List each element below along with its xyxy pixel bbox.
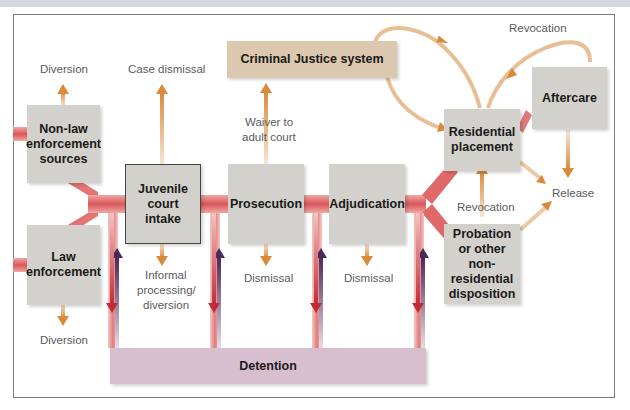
node-non-law-enforcement: Non-law enforcement sources bbox=[27, 105, 100, 183]
node-label: Detention bbox=[239, 359, 297, 374]
label-informal-line3: diversion bbox=[143, 298, 189, 312]
label-release: Release bbox=[552, 186, 594, 200]
label-diversion-top: Diversion bbox=[40, 62, 88, 76]
node-label: Criminal Justice system bbox=[240, 52, 383, 67]
label-case-dismissal: Case dismissal bbox=[128, 62, 205, 76]
label-dismissal-prosecution: Dismissal bbox=[244, 271, 293, 285]
node-label: Probation or other non-residential dispo… bbox=[446, 227, 518, 302]
label-waiver-line1: Waiver to bbox=[245, 115, 293, 129]
label-dismissal-adjudication: Dismissal bbox=[344, 271, 393, 285]
node-aftercare: Aftercare bbox=[532, 67, 607, 129]
label-informal-line2: processing/ bbox=[137, 283, 196, 297]
node-law-enforcement: Law enforcement bbox=[27, 225, 100, 305]
node-label: Juvenile court intake bbox=[128, 182, 198, 227]
node-label: Aftercare bbox=[542, 91, 597, 106]
node-label: Non-law enforcement sources bbox=[26, 122, 101, 167]
label-revocation-mid: Revocation bbox=[457, 200, 515, 214]
node-residential-placement: Residential placement bbox=[444, 109, 520, 171]
node-probation: Probation or other non-residential dispo… bbox=[444, 224, 520, 304]
label-diversion-bottom: Diversion bbox=[40, 333, 88, 347]
label-informal-line1: Informal bbox=[145, 268, 187, 282]
node-label: Adjudication bbox=[329, 197, 405, 212]
label-waiver-line2: adult court bbox=[242, 130, 296, 144]
node-label: Law enforcement bbox=[26, 250, 101, 280]
node-label: Prosecution bbox=[230, 197, 302, 212]
node-criminal-justice-system: Criminal Justice system bbox=[227, 41, 397, 78]
node-prosecution: Prosecution bbox=[228, 164, 304, 244]
node-label: Residential placement bbox=[446, 125, 518, 155]
node-detention: Detention bbox=[110, 348, 426, 384]
node-adjudication: Adjudication bbox=[329, 164, 405, 244]
node-juvenile-court-intake: Juvenile court intake bbox=[125, 164, 201, 244]
label-revocation-top: Revocation bbox=[509, 21, 567, 35]
